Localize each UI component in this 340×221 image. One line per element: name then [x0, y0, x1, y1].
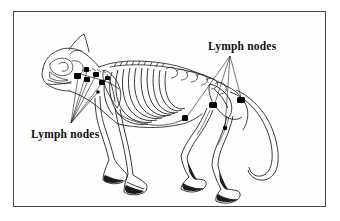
- orbit-c-shape: [59, 62, 68, 71]
- figure-frame: Lymph nodes Lymph nodes: [13, 11, 326, 207]
- lymph-node-iliac: [209, 102, 217, 108]
- scapula-front-edge: [104, 76, 113, 115]
- lymph-node-superficial-cervical-a: [99, 80, 105, 85]
- label-lymph-nodes-top-right: Lymph nodes: [208, 41, 276, 53]
- ischium: [228, 117, 242, 119]
- maxilla-shape: [50, 72, 68, 81]
- lymph-node-popliteal: [223, 126, 227, 130]
- lymph-node-superficial-cervical-b: [105, 76, 110, 80]
- label-lymph-nodes-bottom-left: Lymph nodes: [31, 129, 99, 141]
- front-paw-near: [125, 185, 144, 194]
- occipital-shape: [72, 61, 83, 75]
- front-paw-far: [104, 175, 124, 183]
- lymph-node-superficial-inguinal: [237, 97, 245, 103]
- figure-root: Lymph nodes Lymph nodes: [0, 0, 340, 221]
- lymph-node-mandibular-a: [74, 73, 81, 79]
- lymph-node-axillary: [96, 90, 100, 94]
- cranium-shape: [50, 58, 73, 75]
- ear-base: [70, 50, 82, 54]
- ear-outline: [69, 34, 89, 52]
- flank-line: [177, 114, 202, 125]
- lymph-node-parotid: [84, 67, 89, 72]
- rump-outline: [226, 86, 248, 130]
- lymph-node-sacral: [182, 115, 188, 121]
- cat-skeleton-illustration: [14, 12, 327, 208]
- lymph-node-mandibular-b: [84, 77, 90, 82]
- hind-paw-far: [182, 162, 204, 191]
- lymph-node-retropharyngeal: [93, 72, 99, 77]
- skull-dorsal-outline: [43, 48, 99, 69]
- leader-lines-top-right: [186, 56, 242, 128]
- tail-group: [230, 90, 278, 180]
- thoracic-spine-group: [110, 61, 211, 78]
- lumbar-vertebrae-group: [166, 67, 227, 94]
- muzzle-outline: [42, 69, 70, 91]
